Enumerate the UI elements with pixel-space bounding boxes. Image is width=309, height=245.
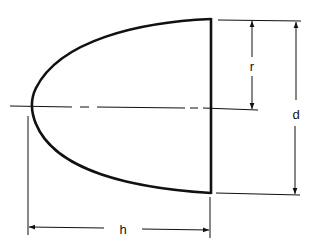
h-dimension-right	[142, 229, 209, 230]
paraboloid-diagram	[0, 0, 309, 245]
r-label: r	[248, 60, 256, 73]
top-extension-line	[218, 20, 301, 21]
h-label: h	[117, 223, 128, 236]
h-dimension-left	[29, 227, 104, 228]
paraboloid-outline	[32, 19, 211, 193]
d-label: d	[290, 108, 301, 121]
bottom-extension-line	[216, 193, 300, 195]
centerline	[10, 106, 258, 110]
